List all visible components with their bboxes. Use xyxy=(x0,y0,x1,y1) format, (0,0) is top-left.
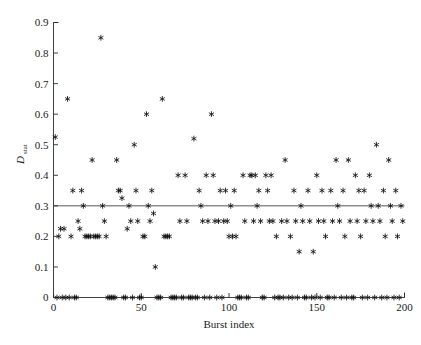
y-tick-label: 0.7 xyxy=(35,78,49,90)
data-point-marker xyxy=(265,188,270,194)
data-point-marker xyxy=(58,226,63,232)
data-point-marker xyxy=(393,188,398,194)
data-point-marker xyxy=(307,218,312,224)
x-tick-label: 100 xyxy=(221,301,238,313)
data-point-marker xyxy=(311,249,316,255)
data-point-marker xyxy=(241,172,246,178)
data-point-marker xyxy=(363,218,368,224)
data-point-marker xyxy=(212,218,217,224)
data-point-marker xyxy=(381,188,386,194)
y-tick-label: 0.2 xyxy=(35,230,49,242)
y-tick-label: 0 xyxy=(43,291,49,303)
data-point-marker xyxy=(223,188,228,194)
data-point-marker xyxy=(346,157,351,163)
data-point-marker xyxy=(337,218,342,224)
data-point-marker xyxy=(149,188,154,194)
data-point-marker xyxy=(305,188,310,194)
data-point-marker xyxy=(367,172,372,178)
data-point-marker xyxy=(377,218,382,224)
data-point-marker xyxy=(330,218,335,224)
data-point-marker xyxy=(183,172,188,178)
data-point-marker xyxy=(316,218,321,224)
data-point-marker xyxy=(76,218,81,224)
data-point-marker xyxy=(362,188,367,194)
data-point-marker xyxy=(400,218,405,224)
data-point-marker xyxy=(125,226,130,232)
data-point-marker xyxy=(135,218,140,224)
data-point-marker xyxy=(300,218,305,224)
data-point-marker xyxy=(184,218,189,224)
data-point-marker xyxy=(128,218,133,224)
data-point-marker xyxy=(218,188,223,194)
data-point-marker xyxy=(267,218,272,224)
data-point-marker xyxy=(383,233,388,239)
y-axis-title-subscript: stat xyxy=(21,144,29,154)
data-point-marker xyxy=(151,211,156,217)
data-point-marker xyxy=(370,218,375,224)
scatter-chart: 00.10.20.30.40.50.60.70.80.9050100150200… xyxy=(0,0,421,345)
data-point-marker xyxy=(374,142,379,148)
data-point-marker xyxy=(256,188,261,194)
data-point-marker xyxy=(160,96,165,102)
data-point-marker xyxy=(358,233,363,239)
data-point-marker xyxy=(355,218,360,224)
data-point-marker xyxy=(258,218,263,224)
data-point-marker xyxy=(334,157,339,163)
data-point-marker xyxy=(65,96,70,102)
x-tick-label: 0 xyxy=(51,301,57,313)
data-point-marker xyxy=(274,233,279,239)
x-axis-title: Burst index xyxy=(203,318,255,330)
data-point-marker xyxy=(251,218,256,224)
data-point-marker xyxy=(204,172,209,178)
y-tick-label: 0.4 xyxy=(35,169,49,181)
data-point-marker xyxy=(98,35,103,41)
x-tick-label: 200 xyxy=(396,301,413,313)
data-point-marker xyxy=(90,157,95,163)
data-point-marker xyxy=(209,111,214,117)
data-point-marker xyxy=(69,233,74,239)
data-point-marker xyxy=(320,188,325,194)
data-point-marker xyxy=(216,218,221,224)
data-point-marker xyxy=(234,233,239,239)
data-point-marker xyxy=(283,157,288,163)
data-point-marker xyxy=(119,195,124,201)
data-point-marker xyxy=(288,233,293,239)
figure-container: 00.10.20.30.40.50.60.70.80.9050100150200… xyxy=(0,0,421,345)
data-point-marker xyxy=(205,218,210,224)
data-point-marker xyxy=(221,218,226,224)
data-point-marker xyxy=(225,218,230,224)
data-point-marker xyxy=(148,218,153,224)
data-point-marker xyxy=(232,188,237,194)
data-point-marker xyxy=(314,172,319,178)
data-point-marker xyxy=(270,218,275,224)
data-point-marker xyxy=(211,172,216,178)
data-point-marker xyxy=(323,233,328,239)
data-point-marker xyxy=(297,249,302,255)
data-point-marker xyxy=(191,136,196,142)
data-point-marker xyxy=(328,188,333,194)
tick-labels-group: 00.10.20.30.40.50.60.70.80.9050100150200 xyxy=(35,16,414,312)
data-point-marker xyxy=(176,172,181,178)
data-point-marker xyxy=(70,188,75,194)
data-point-marker xyxy=(132,142,137,148)
data-point-marker xyxy=(226,233,231,239)
data-point-marker xyxy=(386,157,391,163)
data-point-marker xyxy=(293,218,298,224)
data-point-marker xyxy=(263,172,268,178)
data-point-marker xyxy=(77,226,82,232)
data-point-marker xyxy=(114,157,119,163)
axes-group xyxy=(54,23,405,298)
data-point-marker xyxy=(353,172,358,178)
data-point-marker xyxy=(348,218,353,224)
y-tick-label: 0.6 xyxy=(35,108,49,120)
data-point-marker xyxy=(269,172,274,178)
data-point-marker xyxy=(242,218,247,224)
data-point-marker xyxy=(62,226,67,232)
data-point-marker xyxy=(284,218,289,224)
data-point-marker xyxy=(356,188,361,194)
data-point-marker xyxy=(200,218,205,224)
data-point-marker xyxy=(104,233,109,239)
axis-frame xyxy=(54,23,405,298)
data-point-marker xyxy=(291,188,296,194)
y-tick-label: 0.5 xyxy=(35,139,49,151)
